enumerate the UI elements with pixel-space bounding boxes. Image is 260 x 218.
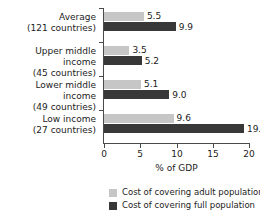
category-label-average: Average (121 countries) [0,12,96,34]
x-axis-tick [213,144,214,148]
category-label-lower-middle-income: Lower middle income (49 countries) [0,80,96,113]
y-axis-tick [99,42,103,43]
legend-label-adult: Cost of covering adult population [122,186,260,199]
x-axis-tick-label: 5 [129,149,151,160]
bar-value-adult-average: 5.5 [147,12,161,21]
bar-adult-lower-middle-income [104,80,141,89]
bar-full-upper-middle-income [104,56,142,65]
legend-label-full: Cost of covering full population [122,199,255,212]
bar-adult-average [104,12,144,21]
bar-adult-low-income [104,114,174,123]
bar-full-low-income [104,124,244,133]
bar-adult-upper-middle-income [104,46,129,55]
x-axis-tick-label: 15 [202,149,224,160]
bar-value-full-lower-middle-income: 9.0 [172,91,186,100]
bar-value-full-low-income: 19.3 [247,125,260,134]
x-axis-title: % of GDP [103,163,250,173]
legend-swatch-adult-icon [109,189,117,197]
x-axis-tick-label: 10 [166,149,188,160]
y-axis-tick [99,8,103,9]
legend-swatch-full-icon [109,202,117,210]
legend-item-adult: Cost of covering adult population [109,186,260,199]
category-label-upper-middle-income: Upper middle income (45 countries) [0,46,96,79]
x-axis-tick [249,144,250,148]
x-axis-tick-label: 0 [93,149,115,160]
legend: Cost of covering adult population Cost o… [109,186,260,212]
x-axis-tick [177,144,178,148]
category-label-line2: (27 countries) [0,125,96,136]
x-axis-tick [140,144,141,148]
bar-full-lower-middle-income [104,90,169,99]
y-axis-tick [99,110,103,111]
x-axis-tick-label: 20 [238,149,260,160]
legend-item-full: Cost of covering full population [109,199,260,212]
x-axis-tick [104,144,105,148]
category-label-low-income: Low income (27 countries) [0,114,96,136]
category-label-line2: (45 countries) [0,68,96,79]
category-label-line1: Upper middle income [0,46,96,68]
bar-value-adult-upper-middle-income: 3.5 [132,46,146,55]
bar-value-full-average: 9.9 [179,23,193,32]
bar-full-average [104,22,176,31]
y-axis-tick [99,76,103,77]
plot-area: 0 5 10 15 20 Average (121 countries) 5.5… [0,0,260,150]
category-label-line1: Lower middle income [0,80,96,102]
category-label-line1: Average [0,12,96,23]
bar-value-adult-lower-middle-income: 5.1 [144,80,158,89]
category-label-line2: (49 countries) [0,102,96,113]
bar-value-full-upper-middle-income: 5.2 [145,57,159,66]
bar-value-adult-low-income: 9.6 [177,114,191,123]
category-label-line1: Low income [0,114,96,125]
bar-chart: 0 5 10 15 20 Average (121 countries) 5.5… [0,0,260,218]
category-label-line2: (121 countries) [0,23,96,34]
